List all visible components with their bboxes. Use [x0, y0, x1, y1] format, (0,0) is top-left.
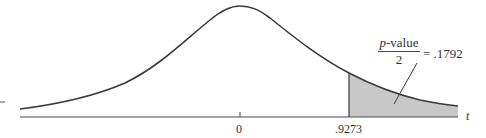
- p-value-result: = .1792: [423, 46, 463, 62]
- fraction-denominator: 2: [378, 52, 420, 67]
- tick-label-critical: .9273: [335, 123, 362, 135]
- p-value-fraction: p-value 2: [378, 36, 420, 67]
- value-word: -value: [386, 35, 418, 50]
- t-distribution-chart: [0, 0, 486, 138]
- tick-label-zero: 0: [236, 123, 242, 135]
- fraction-numerator: p-value: [378, 36, 420, 52]
- axis-label-t: t: [466, 110, 469, 122]
